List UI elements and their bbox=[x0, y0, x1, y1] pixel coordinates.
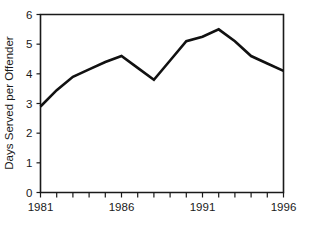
y-tick-label: 3 bbox=[26, 98, 32, 110]
y-tick-label: 6 bbox=[26, 9, 32, 21]
y-tick-label: 1 bbox=[26, 157, 32, 169]
line-chart: 0123456 1981198619911996 Days Served per… bbox=[0, 0, 309, 225]
chart-background bbox=[0, 0, 309, 225]
y-tick-label: 4 bbox=[26, 68, 33, 80]
chart-container: 0123456 1981198619911996 Days Served per… bbox=[0, 0, 309, 225]
x-tick-label: 1986 bbox=[109, 201, 135, 213]
x-tick-label: 1991 bbox=[190, 201, 216, 213]
y-axis-title: Days Served per Offender bbox=[3, 36, 15, 170]
y-tick-label: 5 bbox=[26, 38, 32, 50]
x-tick-label: 1981 bbox=[28, 201, 54, 213]
x-tick-label: 1996 bbox=[271, 201, 297, 213]
y-tick-label: 2 bbox=[26, 127, 32, 139]
y-tick-label: 0 bbox=[26, 187, 32, 199]
